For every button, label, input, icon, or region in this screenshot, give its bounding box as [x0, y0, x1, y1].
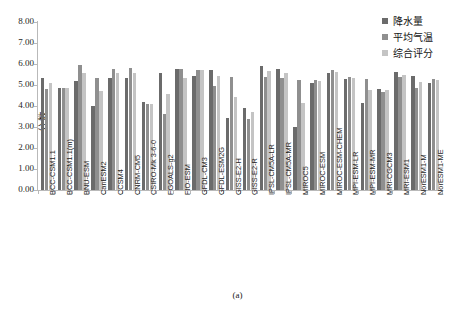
bar [293, 127, 296, 190]
bar [209, 70, 212, 190]
y-axis-tick-label: 3.00 [0, 122, 34, 131]
x-axis-tick-label: MRI-ESM1 [403, 159, 411, 195]
y-axis-tick-label: 0.00 [0, 185, 34, 194]
bar [432, 79, 435, 190]
bar [314, 80, 317, 190]
bar [41, 78, 44, 190]
bar [226, 118, 229, 190]
bar [394, 72, 397, 190]
bar [415, 88, 418, 190]
x-axis-tick-label: MRI-CGCM3 [386, 152, 394, 195]
bar [361, 103, 364, 190]
bar [331, 70, 334, 190]
bar [377, 89, 380, 190]
x-axis-tick-label: GISS-E2-R [251, 158, 259, 195]
x-axis-tick-label: MIROC5 [302, 166, 310, 195]
legend-label: 综合评分 [393, 48, 433, 59]
legend: 降水量 平均气温 综合评分 [382, 14, 474, 62]
x-axis-tick-label: MIROC-ESM-CHEM [336, 128, 344, 195]
y-axis-tick-label: 5.00 [0, 80, 34, 89]
x-axis-tick-label: CNRM-CM5 [134, 155, 142, 195]
bar [129, 68, 132, 190]
y-axis-tick-mark [34, 43, 37, 44]
y-axis-tick-label: 7.00 [0, 38, 34, 47]
bar [327, 73, 330, 190]
bar [213, 86, 216, 190]
y-axis-tick-label: 1.00 [0, 164, 34, 173]
x-axis-tick-label: BCC-CSM1.1(m) [66, 139, 74, 195]
y-axis-tick-label: 2.00 [0, 143, 34, 152]
x-axis-tick-label: BNU-ESM [83, 161, 91, 195]
legend-item: 降水量 [382, 14, 474, 28]
y-axis-tick-mark [34, 169, 37, 170]
y-axis-tick-mark [34, 148, 37, 149]
legend-swatch-icon [382, 50, 388, 56]
figure-panel-a: 分数 8.007.006.005.004.003.002.001.000.00 … [0, 0, 475, 310]
truncated-header-text [30, 0, 450, 7]
bar [260, 66, 263, 190]
x-axis-tick-label: GFDL-CM3 [201, 157, 209, 195]
y-axis-tick-mark [34, 64, 37, 65]
y-axis-tick-label: 8.00 [0, 17, 34, 26]
bar [192, 76, 195, 190]
x-axis-tick-label: MPI-ESM-MR [369, 149, 377, 195]
x-axis-tick-label: CSIRO-Mk 3-6-0 [150, 140, 158, 195]
bar [243, 108, 246, 190]
bar [428, 83, 431, 190]
x-axis-tick-label: NorESM1-M [420, 154, 428, 195]
bar [142, 102, 145, 190]
y-axis-tick-label: 6.00 [0, 59, 34, 68]
y-axis-tick-mark [34, 85, 37, 86]
y-axis-tick-label: 4.00 [0, 101, 34, 110]
x-axis-tick-label: GFDL-ESM2G [218, 147, 226, 195]
bar [159, 73, 162, 190]
figure-caption: (a) [0, 290, 475, 300]
x-axis-tick-label: CanESM2 [100, 161, 108, 195]
bar [276, 69, 279, 190]
bar [91, 106, 94, 190]
bar [344, 79, 347, 190]
bar [411, 76, 414, 190]
x-axis-tick-label: NorESM1-ME [437, 149, 445, 195]
bar [108, 78, 111, 190]
y-axis-tick-mark [34, 190, 37, 191]
x-axis-tick-label: GISS-E2-H [235, 158, 243, 195]
legend-item: 平均气温 [382, 30, 474, 44]
bar [112, 69, 115, 190]
legend-label: 降水量 [393, 16, 423, 27]
x-axis-tick-label: CCSM4 [117, 169, 125, 195]
x-axis-tick-label: IPSL-CM5A-LR [268, 144, 276, 195]
bar [310, 83, 313, 190]
bar [175, 69, 178, 190]
x-axis-tick-label: BCC-CSM1.1 [49, 150, 57, 195]
y-axis-tick-mark [34, 22, 37, 23]
bar [125, 78, 128, 190]
bar [74, 81, 77, 190]
legend-label: 平均气温 [393, 32, 433, 43]
x-axis-tick-label: IPSL-CM5A-MR [285, 142, 293, 195]
bar [230, 77, 233, 190]
legend-item: 综合评分 [382, 46, 474, 60]
y-axis-tick-mark [34, 127, 37, 128]
y-axis-tick-mark [34, 106, 37, 107]
bar-group [291, 22, 308, 190]
x-axis-tick-label: MIROC-ESM [319, 152, 327, 195]
bar [58, 88, 61, 190]
x-axis-labels: BCC-CSM1.1BCC-CSM1.1(m)BNU-ESMCanESM2CCS… [38, 193, 442, 278]
legend-swatch-icon [382, 18, 388, 24]
legend-swatch-icon [382, 34, 388, 40]
x-axis-tick-label: FIO-ESM [184, 164, 192, 195]
x-axis-tick-label: MPI-ESM-LR [352, 151, 360, 195]
x-axis-tick-label: FGOALS-g2 [167, 154, 175, 195]
